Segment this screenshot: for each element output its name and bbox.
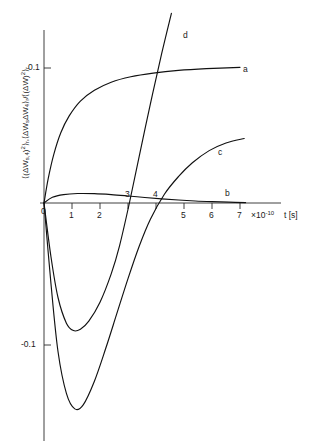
x-tick-label-3: 3	[125, 190, 130, 199]
x-tick-label-0: 0	[41, 207, 46, 216]
y-axis-title-text: ⟨(ΔWs,4)2⟩r,⟨ΔWsΔW4⟩r/⟨(ΔW)2⟩r	[21, 67, 30, 179]
x-tick-label-4: 4	[153, 190, 158, 199]
curve-label-b: b	[225, 189, 230, 198]
plot-canvas	[0, 0, 313, 445]
curve-d	[44, 13, 171, 331]
curve-label-c: c	[218, 148, 222, 157]
x-tick-label-5: 5	[181, 211, 186, 220]
curve-c	[44, 138, 244, 409]
y-axis-title: ⟨(ΔWs,4)2⟩r,⟨ΔWsΔW4⟩r/⟨(ΔW)2⟩r	[20, 38, 30, 208]
y-tick-label-negative: -0.1	[21, 340, 36, 349]
x-axis-unit: ×10-10	[251, 210, 274, 219]
x-axis-unit-base: ×10	[251, 210, 265, 220]
curve-label-d: d	[183, 31, 188, 40]
x-tick-label-2: 2	[97, 211, 102, 220]
x-tick-label-1: 1	[69, 211, 74, 220]
x-tick-label-6: 6	[209, 211, 214, 220]
curve-a	[44, 67, 240, 203]
x-axis-unit-exponent: -10	[265, 210, 274, 216]
curve-label-a: a	[243, 65, 248, 74]
curve-b	[44, 193, 246, 203]
figure-container: 0 1 2 3 4 5 6 7 0.1 -0.1 ×10-10 t [s] a …	[0, 0, 313, 445]
x-axis-title: t [s]	[284, 211, 298, 220]
x-tick-label-7: 7	[237, 211, 242, 220]
